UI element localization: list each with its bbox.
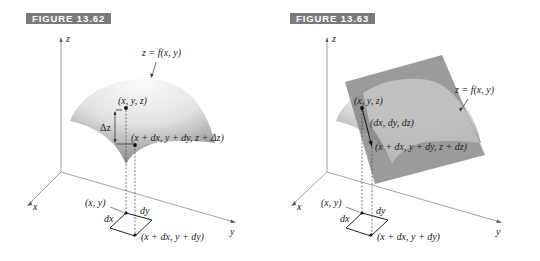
point-top [124,106,128,110]
point-top-label: (x, y, z) [354,95,384,107]
x-axis-label: x [32,201,38,212]
surface [70,79,215,164]
surface-label: z = f(x, y) [454,84,495,96]
point-top-label: (x, y, z) [118,95,148,107]
base-corner-label: (x, y) [321,197,342,209]
figure-diagram: z x y Δz (x, y, z) (x + dx, y + dy, z + … [0,0,270,261]
y-axis [327,172,500,222]
figure-13-63: FIGURE 13.63 z x y [270,0,540,261]
dx-label: dx [104,213,114,224]
point-top [360,106,364,110]
base-opposite-label: (x + dx, y + dy) [141,231,205,243]
z-arrow-icon [60,37,63,42]
dy-label: dy [376,205,386,216]
y-axis-label: y [229,226,235,237]
figure-13-62: FIGURE 13.62 z x y [0,0,270,261]
figure-diagram: z x y (x, y, z) (dx, dy, dz) (x + dx, y … [270,0,540,261]
point-bottom [133,143,137,147]
point-bottom-label: (x + dx, y + dy, z + Δz) [131,132,224,144]
surface-label: z = f(x, y) [141,47,182,59]
y-axis-label: y [495,226,501,237]
pointer-arrow-icon [150,74,154,79]
dx-label: dx [340,213,350,224]
delta-z-label: Δz [100,122,111,133]
point-bottom-label: (x + dx, y + dy, z + dz) [375,141,468,153]
base-corner-label: (x, y) [85,197,106,209]
y-arrow-icon [497,220,503,224]
dy-label: dy [140,205,150,216]
base-opposite-label: (x + dx, y + dy) [377,231,441,243]
x-axis-label: x [296,201,302,212]
vector-label: (dx, dy, dz) [370,117,415,129]
z-arrow-icon [326,37,329,42]
x-axis [29,172,61,204]
z-axis-label: z [331,33,336,44]
z-axis-label: z [65,33,70,44]
y-arrow-icon [231,220,237,224]
